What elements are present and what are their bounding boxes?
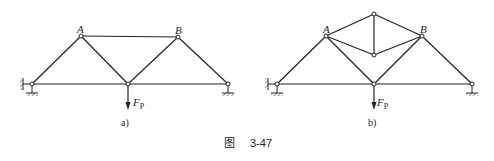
load-label-b: FP (377, 97, 388, 108)
node-right-b (470, 82, 474, 86)
figure-caption-number: 3-47 (250, 138, 272, 149)
node-mid-b (372, 82, 376, 86)
top-chord-a (81, 36, 178, 37)
node-inner-b (372, 53, 376, 57)
load-label-a: FP (133, 97, 144, 108)
member-left-diag-b (277, 36, 326, 84)
node-label-B-b: B (420, 24, 427, 35)
member-A-mid-b (326, 36, 374, 84)
member-A-inner-b (326, 36, 374, 55)
node-label-A-b: A (323, 24, 330, 35)
load-arrow-b (372, 86, 377, 110)
load-arrow-a (126, 86, 131, 110)
node-left-b (275, 82, 279, 86)
member-mid-B-b (374, 36, 422, 84)
member-mid-b-a (128, 37, 178, 84)
node-top-b (372, 12, 376, 16)
load-subscript-a: P (140, 102, 144, 111)
node-mid-a (126, 82, 130, 86)
truss-a (32, 36, 228, 84)
member-a-mid-a (81, 36, 128, 84)
load-subscript-b: P (384, 102, 388, 111)
member-left-diag-a (32, 36, 81, 84)
member-top-B-b (374, 14, 422, 36)
node-right-a (226, 82, 230, 86)
node-label-A-a: A (77, 24, 84, 35)
figure-caption-prefix: 图 (224, 138, 235, 149)
member-inner-B-b (374, 36, 422, 55)
load-symbol-b: F (377, 96, 384, 108)
member-A-top-b (326, 14, 374, 36)
node-label-B-a: B (175, 25, 182, 36)
load-symbol-a: F (133, 96, 140, 108)
truss-b (277, 14, 472, 84)
panel-label-b: b) (368, 118, 376, 128)
panel-label-a: a) (121, 118, 129, 128)
node-left-a (30, 82, 34, 86)
member-right-diag-a (178, 37, 228, 84)
member-right-diag-b (422, 36, 472, 84)
